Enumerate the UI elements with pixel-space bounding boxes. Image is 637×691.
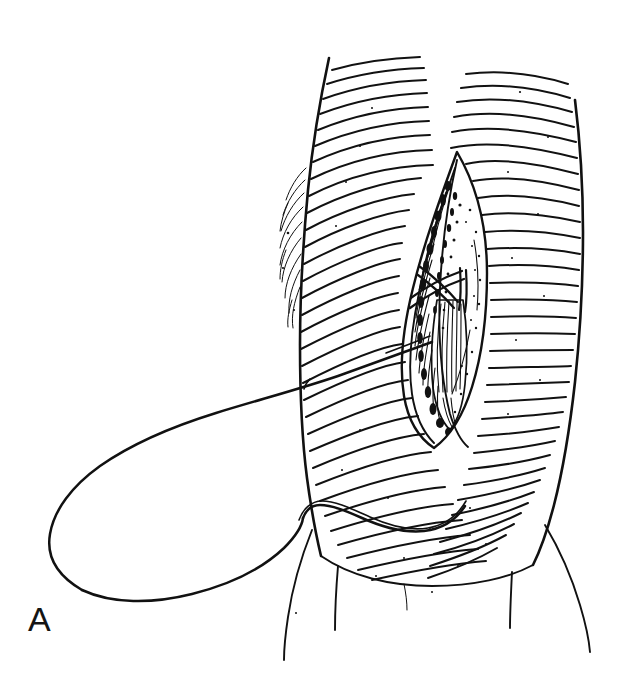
canvas-background xyxy=(0,0,637,691)
surgical-illustration xyxy=(0,0,637,691)
panel-label: A xyxy=(28,602,51,636)
figure-root: A xyxy=(0,0,637,691)
